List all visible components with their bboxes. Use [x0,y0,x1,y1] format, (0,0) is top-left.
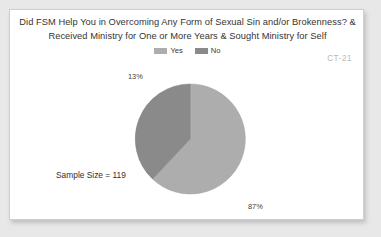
plot-area: 13% 87% Sample Size = 119 [10,10,365,221]
pie-value-label-no: 13% [128,72,143,81]
pie-value-label-yes: 87% [248,202,263,211]
sample-size-annotation: Sample Size = 119 [56,170,126,180]
chart-figure-frame: Did FSM Help You in Overcoming Any Form … [9,9,364,220]
pie-chart [133,82,247,196]
